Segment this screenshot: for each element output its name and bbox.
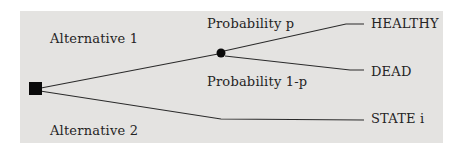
outcome-state-i-label: STATE i — [371, 112, 424, 125]
outcome-healthy-label: HEALTHY — [371, 17, 439, 30]
outcome-dead-label: DEAD — [371, 65, 412, 78]
decision-tree-diagram: Alternative 1 Alternative 2 Probability … — [0, 0, 459, 150]
alternative-1-branch-line — [41, 54, 218, 88]
probability-p-label: Probability p — [207, 17, 294, 30]
alternative-1-label: Alternative 1 — [50, 32, 138, 45]
dead-branch-line — [225, 56, 364, 70]
probability-1-p-label: Probability 1-p — [207, 75, 307, 88]
alternative-2-label: Alternative 2 — [50, 124, 138, 137]
decision-node-square — [29, 82, 42, 95]
chance-node-circle — [217, 49, 226, 58]
alternative-2-branch-line — [40, 91, 364, 120]
